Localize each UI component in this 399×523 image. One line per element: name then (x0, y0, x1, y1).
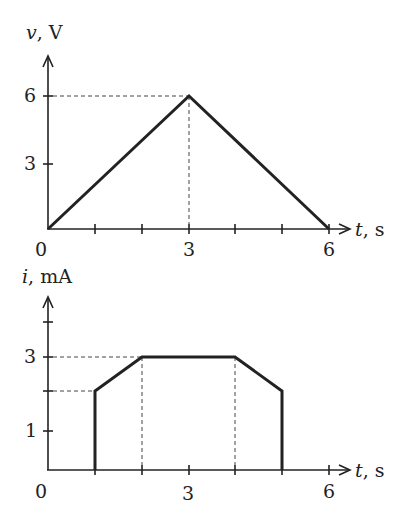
voltage-chart: v, V t, s 6 3 0 3 6 (24, 21, 384, 260)
y-axis-label: i, mA (22, 265, 72, 287)
y-tick-label-6: 6 (24, 84, 36, 106)
x-tick-label-6: 6 (323, 238, 335, 260)
y-tick-label-3: 3 (24, 345, 36, 367)
x-tick-label-3: 3 (183, 238, 195, 260)
x-axis-label: t, s (355, 218, 384, 240)
x-tick-label-0: 0 (35, 480, 47, 502)
x-tick-label-0: 0 (35, 238, 47, 260)
y-tick-label-3: 3 (24, 152, 36, 174)
chart-figure: v, V t, s 6 3 0 3 6 (0, 0, 399, 523)
y-axis-label: v, V (26, 21, 63, 43)
current-line (95, 357, 282, 470)
y-tick-label-1: 1 (25, 419, 37, 441)
x-tick-label-3: 3 (182, 482, 194, 504)
x-tick-label-6: 6 (323, 480, 335, 502)
current-chart: i, mA t, s 3 1 0 3 6 (22, 265, 384, 504)
x-axis-label: t, s (355, 459, 384, 481)
